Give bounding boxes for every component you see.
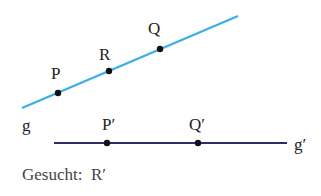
label-g: g [22, 116, 31, 135]
label-g-prime: g′ [294, 135, 306, 154]
point-q [157, 46, 163, 52]
point-q-prime [195, 140, 201, 146]
line-g [22, 16, 238, 108]
point-p-prime [104, 140, 110, 146]
label-p: P [51, 64, 60, 83]
point-r [106, 68, 112, 74]
points-group: PRQP′Q′ [51, 19, 205, 146]
label-q-prime: Q′ [189, 115, 205, 134]
label-q: Q [148, 19, 160, 38]
label-p-prime: P′ [102, 115, 115, 134]
point-p [55, 90, 61, 96]
caption-sought-point: Gesucht: R′ [22, 165, 106, 185]
label-r: R [99, 45, 111, 64]
